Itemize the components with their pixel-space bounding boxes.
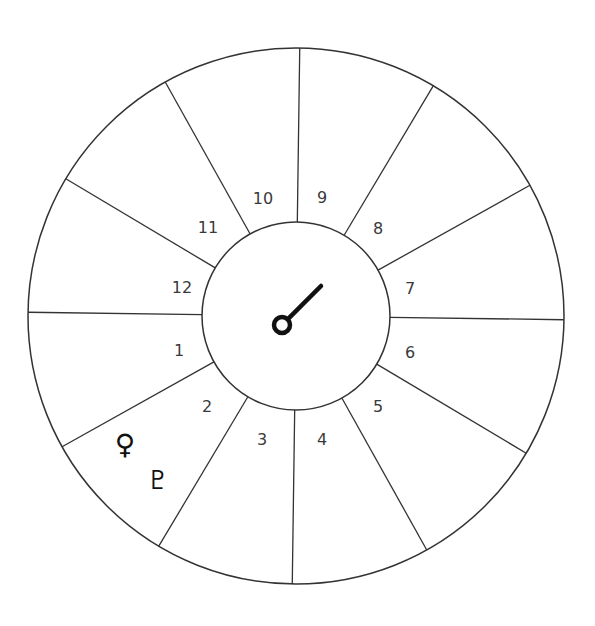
house-cusp-line [28, 312, 202, 314]
house-number-7: 7 [405, 281, 415, 297]
astrology-wheel [0, 0, 595, 626]
house-number-3: 3 [257, 432, 267, 448]
house-number-1: 1 [174, 343, 184, 359]
inner-circle [202, 222, 390, 410]
house-number-2: 2 [202, 399, 212, 415]
house-number-5: 5 [373, 399, 383, 415]
house-number-12: 12 [172, 280, 192, 296]
house-number-9: 9 [317, 190, 327, 206]
house-cusp-line [62, 362, 214, 447]
house-number-8: 8 [373, 221, 383, 237]
house-number-10: 10 [253, 191, 273, 207]
venus-icon: ♀ [115, 431, 136, 459]
house-cusp-line [378, 185, 530, 270]
house-cusp-line [377, 364, 526, 453]
house-cusp-line [344, 86, 433, 235]
pluto-icon: ♇ [146, 467, 169, 493]
house-cusp-line [165, 82, 250, 234]
house-cusp-line [66, 179, 215, 268]
house-number-4: 4 [317, 432, 327, 448]
house-cusp-line [390, 317, 564, 319]
house-cusp-line [342, 398, 427, 550]
house-cusp-line [159, 397, 248, 546]
house-number-11: 11 [198, 220, 218, 236]
house-cusp-line [292, 410, 294, 584]
house-cusp-line [297, 48, 299, 222]
house-number-6: 6 [405, 345, 415, 361]
